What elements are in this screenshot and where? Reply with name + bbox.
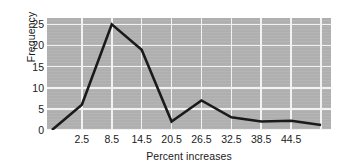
y-tick-label: 10 bbox=[22, 83, 44, 93]
y-tick-label: 0 bbox=[22, 125, 44, 135]
x-tick-label: 44.5 bbox=[271, 133, 311, 145]
series-line-frequency bbox=[47, 18, 331, 130]
y-tick-label: 5 bbox=[22, 104, 44, 114]
plot-area bbox=[47, 18, 331, 130]
x-axis-tick-labels: 2.58.514.520.526.532.538.544.5 bbox=[47, 133, 331, 147]
y-axis-tick-labels: 0510152025 bbox=[20, 0, 44, 167]
y-tick-label: 15 bbox=[22, 62, 44, 72]
frequency-polygon-chart: Frequency 0510152025 2.58.514.520.526.53… bbox=[0, 0, 353, 167]
y-tick-label: 20 bbox=[22, 40, 44, 50]
y-tick-label: 25 bbox=[22, 19, 44, 29]
x-axis-title: Percent increases bbox=[47, 150, 331, 162]
